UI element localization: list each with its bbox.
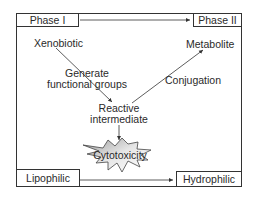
phase-two-label: Phase II xyxy=(198,14,237,26)
reactive-node-line2: intermediate xyxy=(84,114,154,125)
conjugation-label: Conjugation xyxy=(165,75,221,86)
hydrophilic-box: Hydrophilic xyxy=(176,171,242,187)
phase-one-box: Phase I xyxy=(16,13,79,27)
phase-one-label: Phase I xyxy=(30,14,66,26)
hydrophilic-label: Hydrophilic xyxy=(183,173,235,185)
phase-two-box: Phase II xyxy=(193,13,242,27)
generate-label-line2: functional groups xyxy=(40,79,134,90)
xenobiotic-node: Xenobiotic xyxy=(34,38,83,49)
metabolism-diagram: Phase I Phase II Lipophilic Hydrophilic … xyxy=(0,0,264,199)
cytotoxicity-node: Cytotoxicity xyxy=(90,150,150,161)
lipophilic-label: Lipophilic xyxy=(26,172,70,184)
metabolite-node: Metabolite xyxy=(186,39,234,50)
lipophilic-box: Lipophilic xyxy=(16,169,80,187)
